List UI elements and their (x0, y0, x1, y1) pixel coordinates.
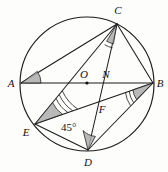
point-label-A: A (7, 77, 15, 89)
point-label-B: B (157, 77, 164, 89)
point-label-F: F (98, 103, 106, 115)
segment-chord-CB (117, 24, 153, 83)
angle-marker-at-B (133, 83, 153, 99)
geometry-figure: A B C D E O N F 45° (0, 0, 168, 172)
point-label-O: O (80, 68, 88, 80)
geometry-canvas: A B C D E O N F 45° (0, 0, 168, 172)
angle-arc-at-E-3 (62, 91, 77, 109)
center-point-dot-O (85, 81, 88, 84)
angle-marker-at-A (21, 71, 41, 83)
angle-label-45-degrees: 45° (61, 121, 76, 133)
angle-marker-at-D (83, 131, 95, 150)
angle-marker-at-E (35, 103, 63, 125)
angle-arc-at-B-1 (129, 91, 133, 102)
point-label-E: E (22, 126, 30, 138)
point-label-D: D (83, 156, 92, 168)
point-label-N: N (101, 68, 110, 80)
point-label-C: C (114, 4, 122, 16)
